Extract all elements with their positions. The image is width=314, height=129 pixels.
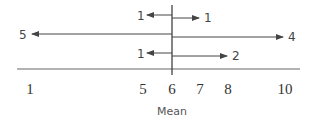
- tick-label-8: 8: [224, 81, 232, 97]
- deviation-label-row1-right: 1: [204, 11, 212, 25]
- deviation-label-row2-right: 4: [288, 30, 296, 44]
- tick-label-1: 1: [26, 81, 34, 97]
- deviation-label-row3-right: 2: [232, 49, 240, 63]
- tick-label-7: 7: [196, 81, 204, 97]
- deviation-label-row2-left: 5: [19, 28, 27, 42]
- tick-label-6: 6: [168, 81, 176, 97]
- tick-label-10: 10: [278, 81, 293, 97]
- deviation-label-row1-left: 1: [137, 9, 145, 23]
- tick-label-5: 5: [139, 81, 147, 97]
- deviation-label-row3-left: 1: [137, 47, 145, 61]
- number-line-diagram: 1 1 5 4 1 2 1 5 6 7 8 10 Mean: [0, 0, 314, 129]
- mean-axis-label: Mean: [157, 105, 187, 118]
